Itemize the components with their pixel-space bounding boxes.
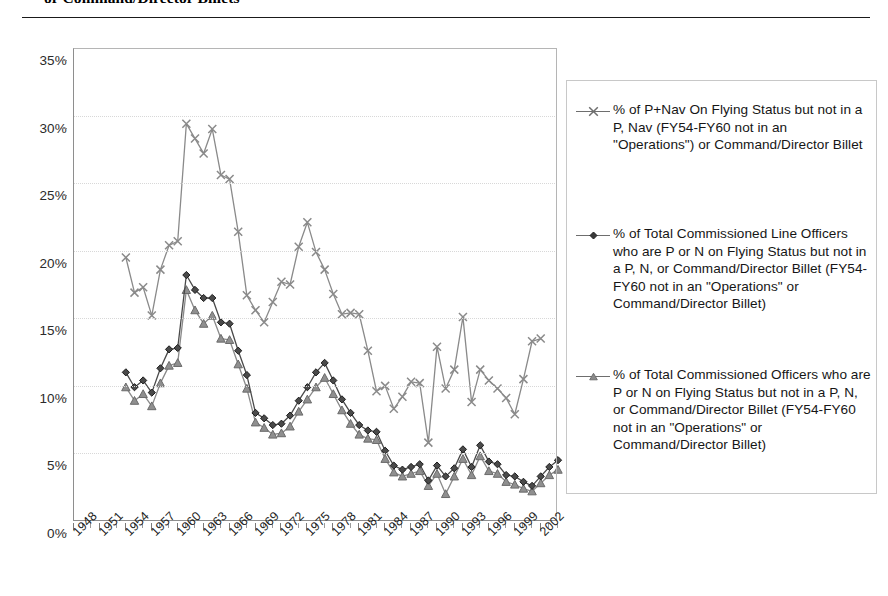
y-axis-tick-mark	[61, 263, 67, 264]
data-point	[485, 467, 493, 475]
gridline	[74, 183, 557, 184]
data-point	[312, 248, 320, 256]
data-point	[304, 384, 311, 391]
data-point	[139, 283, 147, 291]
data-point	[520, 478, 527, 485]
data-point	[286, 422, 294, 430]
y-axis-tick-mark	[61, 398, 67, 399]
data-point	[321, 266, 329, 274]
y-axis-tick-mark	[61, 533, 67, 534]
data-point	[502, 394, 510, 402]
gridline	[74, 48, 557, 49]
legend-label-total-officers: % of Total Commissioned Officers who are…	[613, 366, 871, 454]
data-point	[329, 390, 337, 398]
y-axis: 0%5%10%15%20%25%30%35%	[20, 48, 67, 521]
chart-legend: % of P+Nav On Flying Status but not in a…	[566, 80, 877, 494]
data-point	[320, 374, 328, 382]
gridline	[74, 386, 557, 387]
data-point	[485, 458, 492, 465]
data-point	[217, 319, 224, 326]
chart-container: 0%5%10%15%20%25%30%35% 19481951195419571…	[20, 36, 566, 528]
data-point	[269, 298, 277, 306]
data-point	[165, 241, 173, 249]
y-axis-tick-mark	[61, 195, 67, 196]
data-point	[338, 396, 345, 403]
legend-label-p-nav: % of P+Nav On Flying Status but not in a…	[613, 101, 871, 154]
data-point	[346, 419, 354, 427]
y-axis-tick-mark	[61, 330, 67, 331]
page-title: or Command/Director Billets	[44, 0, 544, 7]
data-point	[329, 290, 337, 298]
data-point	[416, 461, 423, 468]
data-point	[243, 371, 250, 378]
data-point	[260, 424, 268, 432]
x-axis: 1948195119541957196019631966196919721975…	[73, 523, 557, 593]
data-point	[235, 347, 242, 354]
data-point	[390, 405, 398, 413]
data-point	[174, 359, 182, 367]
triangle-marker-icon	[575, 368, 613, 384]
data-point	[131, 289, 139, 297]
gridline	[74, 318, 557, 319]
legend-entry-p-nav: % of P+Nav On Flying Status but not in a…	[575, 101, 871, 154]
data-point	[251, 418, 259, 426]
y-axis-tick-mark	[61, 128, 67, 129]
series-layer	[74, 48, 558, 521]
data-point	[165, 346, 172, 353]
data-point	[260, 318, 268, 326]
data-point	[295, 397, 302, 404]
legend-label-line-officers: % of Total Commissioned Line Officers wh…	[613, 225, 871, 313]
data-point	[234, 360, 242, 368]
data-point	[122, 253, 130, 261]
data-point	[122, 383, 130, 391]
data-point	[217, 334, 225, 342]
y-axis-tick-mark	[61, 465, 67, 466]
data-point	[364, 427, 371, 434]
gridline	[74, 453, 557, 454]
data-point	[485, 376, 493, 384]
gridline	[74, 116, 557, 117]
data-point	[252, 306, 260, 314]
legend-entry-line-officers: % of Total Commissioned Line Officers wh…	[575, 225, 871, 313]
data-point	[200, 149, 208, 157]
data-point	[330, 377, 337, 384]
data-point	[226, 320, 233, 327]
data-point	[554, 465, 562, 473]
data-point	[364, 434, 372, 442]
chart-page: or Command/Director Billets 0%5%10%15%20…	[0, 0, 888, 596]
data-point	[191, 306, 199, 314]
data-point	[122, 369, 129, 376]
data-point	[399, 466, 406, 473]
data-point	[373, 428, 380, 435]
data-point	[157, 365, 164, 372]
gridline	[74, 251, 557, 252]
data-point	[511, 473, 518, 480]
data-point	[477, 442, 484, 449]
x-marker-icon	[575, 103, 613, 119]
data-point	[407, 463, 414, 470]
legend-entry-total-officers: % of Total Commissioned Officers who are…	[575, 366, 871, 454]
data-point	[277, 278, 285, 286]
data-point	[476, 366, 484, 374]
data-point	[182, 286, 190, 294]
data-point	[338, 406, 346, 414]
data-point	[511, 410, 519, 418]
data-point	[459, 446, 466, 453]
plot-area	[73, 48, 557, 521]
diamond-marker-icon	[575, 227, 613, 243]
data-point	[537, 335, 545, 343]
data-point	[441, 490, 449, 498]
data-point	[183, 271, 190, 278]
data-point	[209, 294, 216, 301]
data-point	[398, 393, 406, 401]
data-point	[191, 135, 199, 143]
data-point	[139, 390, 147, 398]
data-point	[450, 472, 458, 480]
y-axis-tick-mark	[61, 60, 67, 61]
title-divider	[22, 17, 870, 18]
data-point	[467, 471, 475, 479]
data-point	[303, 218, 311, 226]
data-point	[545, 471, 553, 479]
